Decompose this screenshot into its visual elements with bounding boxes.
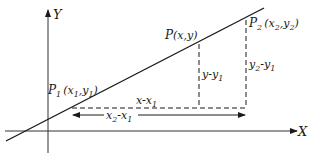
x-axis-label: X [297,124,308,139]
point-p-label: P(x,y) [164,28,198,42]
point-p1-label: P1(x1,y1) [47,83,98,99]
x-minus-x1-label: x-x1 [136,94,157,109]
y-minus-y1-label: y-y1 [201,68,223,83]
y2-minus-y1-label: y2-y1 [248,58,275,73]
point-p2-label: P2(x2,y2) [248,16,299,32]
y-axis-label: Y [53,7,63,22]
line-through-two-points-diagram: Y X P1(x1,y1) P(x,y) P2(x2,y2) x-x1 x2-x… [0,0,309,157]
straight-line [6,8,264,141]
x2-minus-x1-label: x2-x1 [106,109,132,124]
